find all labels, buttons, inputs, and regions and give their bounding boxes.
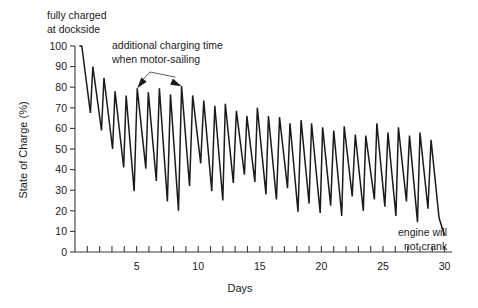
x-tick-label: 25 — [377, 260, 389, 272]
state-of-charge-chart: 0102030405060708090100 51015202530 fully… — [0, 0, 478, 308]
x-tick-label: 5 — [134, 260, 140, 272]
x-axis-title: Days — [227, 282, 253, 294]
y-tick-label: 90 — [55, 60, 67, 72]
annotation-additional-charging-line2: when motor-sailing — [111, 53, 200, 65]
y-tick-label: 30 — [55, 184, 67, 196]
y-tick-label: 70 — [55, 102, 67, 114]
annotation-engine-line1: engine will — [398, 226, 447, 238]
annotation-additional-charging-line1: additional charging time — [112, 39, 223, 51]
y-tick-label: 100 — [49, 40, 67, 52]
y-tick-label: 60 — [55, 122, 67, 134]
chart-figure: 0102030405060708090100 51015202530 fully… — [0, 0, 478, 308]
annotation-engine-line2: not crank — [404, 240, 448, 252]
y-tick-label: 20 — [55, 205, 67, 217]
y-axis-title: State of Charge (%) — [17, 101, 29, 198]
y-tick-label: 50 — [55, 143, 67, 155]
annotation-fully-charged-line2: at dockside — [47, 23, 100, 35]
x-tick-label: 20 — [316, 260, 328, 272]
x-tick-label: 15 — [254, 260, 266, 272]
x-tick-label: 30 — [439, 260, 451, 272]
y-tick-label: 40 — [55, 163, 67, 175]
annotation-fully-charged-line1: fully charged — [47, 9, 107, 21]
y-tick-label: 10 — [55, 225, 67, 237]
y-tick-label: 0 — [61, 246, 67, 258]
y-tick-label: 80 — [55, 81, 67, 93]
x-tick-label: 10 — [192, 260, 204, 272]
